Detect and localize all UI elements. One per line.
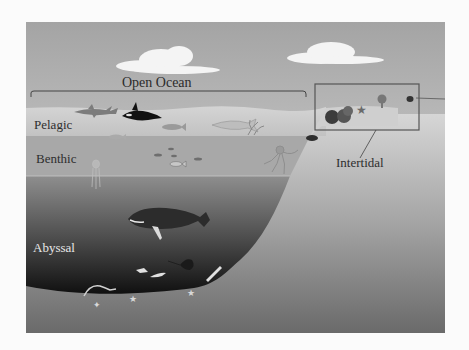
svg-text:✦: ✦: [93, 300, 101, 310]
ocean-zones-diagram: ✦ ★ ★ ★: [26, 22, 445, 333]
open-ocean-label: Open Ocean: [122, 75, 192, 91]
coral-icon: [407, 96, 414, 102]
svg-text:★: ★: [129, 294, 137, 304]
svg-text:★: ★: [187, 288, 195, 298]
abyssal-label: Abyssal: [33, 240, 75, 256]
starfish-icon: ★: [356, 103, 367, 117]
svg-text:★: ★: [356, 103, 367, 117]
coral-icon: [306, 135, 318, 141]
intertidal-label: Intertidal: [336, 155, 384, 171]
benthic-label: Benthic: [36, 151, 76, 167]
pelagic-label: Pelagic: [34, 117, 72, 133]
